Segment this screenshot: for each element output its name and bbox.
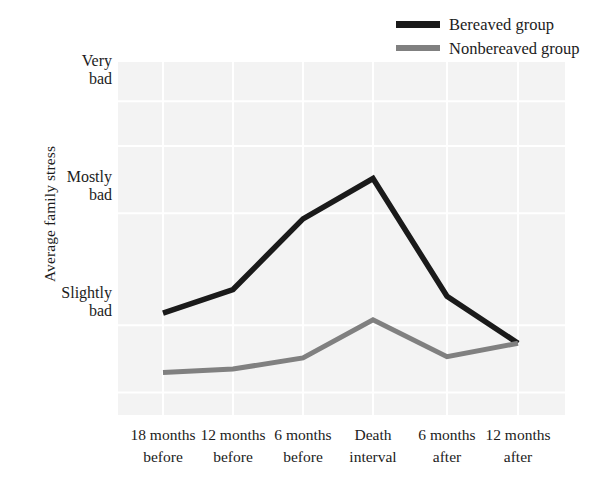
y-axis-tick-labels: Very bad Mostly bad Slightly bad — [26, 0, 112, 483]
chart-legend: Bereaved group Nonbereaved group — [396, 12, 586, 60]
legend-swatch-bereaved-icon — [396, 21, 440, 28]
x-tick-12-months-after: 12 months after — [466, 424, 570, 468]
gridlines — [118, 62, 565, 415]
y-tick-mostly-bad: Mostly bad — [26, 168, 112, 204]
plot-area — [118, 62, 565, 415]
legend-label-nonbereaved: Nonbereaved group — [449, 39, 580, 58]
x-axis-tick-labels: 18 months before 12 months before 6 mont… — [118, 424, 565, 479]
series-line-nonbereaved-group — [163, 320, 518, 373]
series-line-bereaved-group — [163, 179, 518, 344]
legend-item-nonbereaved: Nonbereaved group — [396, 36, 586, 60]
legend-swatch-nonbereaved-icon — [396, 45, 440, 51]
legend-label-bereaved: Bereaved group — [449, 15, 554, 34]
y-tick-slightly-bad: Slightly bad — [26, 284, 112, 320]
y-tick-very-bad: Very bad — [26, 52, 112, 88]
plot-svg — [118, 62, 565, 415]
legend-item-bereaved: Bereaved group — [396, 12, 586, 36]
line-chart-figure: Bereaved group Nonbereaved group Average… — [0, 0, 592, 483]
data-series-layer — [163, 179, 518, 373]
